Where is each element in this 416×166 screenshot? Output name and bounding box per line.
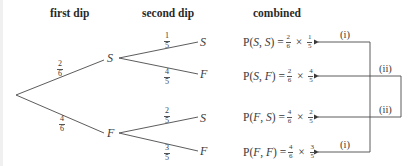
eq-frac-2: 35 — [310, 144, 315, 160]
numerator: 3 — [311, 144, 315, 151]
eq-prefix: P( — [243, 70, 253, 82]
eq-suffix: ) = — [272, 70, 285, 82]
tree-lines — [0, 0, 416, 166]
node-first-S: S — [107, 52, 113, 64]
leaf-S-S: S — [200, 36, 206, 48]
eq-frac-2: 45 — [308, 68, 313, 84]
numerator: 2 — [165, 107, 169, 115]
branch-F-F — [119, 133, 198, 151]
denominator: 6 — [286, 43, 290, 50]
branch-F-S — [119, 117, 198, 133]
times-sign: × — [297, 111, 304, 123]
equation-FF: P(F, F) = 46 × 35 — [243, 144, 317, 160]
connector-label-i-top: (i) — [340, 29, 350, 40]
numerator: 3 — [165, 144, 169, 152]
prob-S-F: 45 — [164, 68, 170, 86]
eq-frac-1: 26 — [287, 68, 292, 84]
numerator: 1 — [308, 34, 312, 41]
eq-outcome-b: F — [266, 146, 273, 158]
eq-outcome-b: F — [265, 70, 272, 82]
eq-frac-2: 15 — [307, 34, 312, 50]
connector-label-ii-bottom: (ii) — [379, 104, 392, 115]
leaf-S-F: F — [200, 68, 207, 80]
equation-SS: P(S, S) = 26 × 15 — [243, 34, 314, 50]
numerator: 4 — [165, 68, 169, 76]
denominator: 6 — [60, 125, 64, 133]
denominator: 5 — [309, 77, 313, 84]
eq-outcome-a: F — [253, 146, 260, 158]
denominator: 5 — [165, 42, 169, 50]
times-sign: × — [297, 70, 304, 82]
numerator: 1 — [165, 32, 169, 40]
numerator: 4 — [288, 109, 292, 116]
leaf-F-F: F — [200, 145, 207, 157]
eq-sep: , — [259, 36, 262, 48]
denominator: 5 — [165, 117, 169, 125]
numerator: 4 — [309, 68, 313, 75]
denominator: 5 — [308, 43, 312, 50]
prob-F-F: 35 — [164, 144, 170, 162]
eq-suffix: ) = — [273, 146, 286, 158]
eq-frac-2: 25 — [308, 109, 313, 125]
prob-root-S: 26 — [57, 60, 63, 78]
eq-prefix: P( — [243, 146, 253, 158]
times-sign: × — [298, 146, 305, 158]
eq-outcome-a: F — [253, 111, 260, 123]
eq-sep: , — [260, 111, 263, 123]
denominator: 5 — [311, 153, 315, 160]
connector-label-ii-top: (ii) — [379, 63, 392, 74]
numerator: 2 — [58, 60, 62, 68]
denominator: 6 — [288, 118, 292, 125]
eq-suffix: ) = — [272, 111, 285, 123]
eq-suffix: ) = — [270, 36, 283, 48]
node-first-F: F — [107, 127, 114, 139]
eq-sep: , — [259, 70, 262, 82]
denominator: 6 — [289, 153, 293, 160]
prob-S-S: 15 — [164, 32, 170, 50]
denominator: 6 — [288, 77, 292, 84]
branch-S-F — [119, 58, 198, 74]
eq-frac-1: 26 — [286, 34, 291, 50]
numerator: 4 — [60, 115, 64, 123]
numerator: 2 — [288, 68, 292, 75]
eq-prefix: P( — [243, 36, 253, 48]
prob-root-F: 46 — [59, 115, 65, 133]
numerator: 2 — [309, 109, 313, 116]
numerator: 4 — [289, 144, 293, 151]
denominator: 6 — [58, 70, 62, 78]
prob-F-S: 25 — [164, 107, 170, 125]
connector-label-i-bottom: (i) — [340, 139, 350, 150]
denominator: 5 — [309, 118, 313, 125]
times-sign: × — [296, 36, 303, 48]
eq-frac-1: 46 — [288, 144, 293, 160]
eq-frac-1: 46 — [287, 109, 292, 125]
eq-sep: , — [260, 146, 263, 158]
denominator: 5 — [165, 154, 169, 162]
leaf-F-S: S — [200, 112, 206, 124]
equation-FS: P(F, S) = 46 × 25 — [243, 109, 315, 125]
eq-prefix: P( — [243, 111, 253, 123]
denominator: 5 — [165, 78, 169, 86]
branch-S-S — [119, 42, 198, 58]
equation-SF: P(S, F) = 26 × 45 — [243, 68, 315, 84]
numerator: 2 — [286, 34, 290, 41]
